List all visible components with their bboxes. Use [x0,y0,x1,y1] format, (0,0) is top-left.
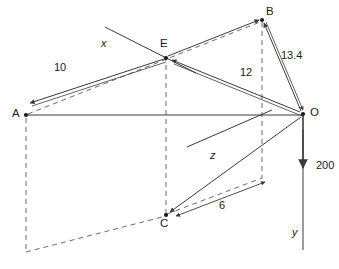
point-marker-a [24,113,28,117]
point-marker-o [301,112,305,116]
dashed-base-a-c [26,216,166,252]
vector-e-to-b [168,20,259,56]
dimension-label-6: 6 [219,200,225,211]
dimension-label-12: 12 [240,67,252,78]
vector-o-to-b [264,23,301,111]
point-marker-e [164,56,168,60]
axis-line-z [187,110,272,147]
point-label-o: O [310,107,319,119]
dimension-label-10: 10 [54,62,66,73]
dashed-construction-lines [26,22,262,252]
axis-label-x: x [101,38,107,49]
vector-diagram: A B C E O x y z 10 12 13.4 6 200 [0,0,339,269]
point-label-b: B [266,6,274,18]
axis-label-y: y [292,227,298,238]
axis-label-z: z [210,150,216,161]
axis-lines [105,27,303,250]
dimension-line-12 [174,64,302,116]
dimension-line-10 [32,62,166,106]
diagram-canvas [0,0,339,269]
dimension-label-13-4: 13.4 [281,50,302,61]
point-label-c: C [160,218,168,230]
point-label-a: A [12,108,20,120]
vector-e-to-a [30,59,164,103]
dimension-label-200: 200 [316,160,334,171]
point-marker-b [260,18,264,22]
dimension-line-13-4 [266,22,303,110]
vector-o-to-c [170,117,301,212]
vector-o-to-e [172,60,300,112]
point-label-e: E [160,38,168,50]
dashed-c-to-corner [167,178,262,214]
